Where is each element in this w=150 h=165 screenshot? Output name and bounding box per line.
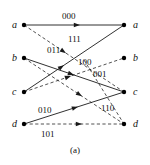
edge-label-010: 010 xyxy=(38,106,52,115)
edge-d-to-c-arrowhead xyxy=(71,106,78,110)
node-label-right-a: a xyxy=(133,20,138,30)
node-left-c xyxy=(22,90,26,94)
edge-label-110: 110 xyxy=(101,104,114,113)
node-label-right-c: c xyxy=(133,87,137,97)
node-label-left-c: c xyxy=(12,87,16,97)
node-label-right-d: d xyxy=(133,119,138,129)
edge-b-to-d-arrowhead xyxy=(76,91,82,96)
edge-label-001: 001 xyxy=(93,70,107,79)
edge-label-101: 101 xyxy=(41,130,55,139)
edge-label-000: 000 xyxy=(62,12,76,21)
node-label-right-b: b xyxy=(133,53,138,63)
node-label-left-d: d xyxy=(12,119,17,129)
node-right-a xyxy=(122,23,126,27)
edge-c-to-b-arrowhead xyxy=(64,76,71,80)
node-left-b xyxy=(22,56,26,60)
figure-container: abcdabcd 000111001011100010101110 (a) xyxy=(0,0,150,165)
edge-d-to-d-arrowhead xyxy=(76,122,82,127)
edge-a-to-c-arrowhead xyxy=(60,48,66,53)
edge-label-011: 011 xyxy=(47,46,60,55)
edge-label-111: 111 xyxy=(68,35,81,44)
node-left-a xyxy=(22,23,26,27)
node-right-d xyxy=(122,122,126,126)
node-right-c xyxy=(122,90,126,94)
trellis-diagram xyxy=(0,0,150,165)
node-left-d xyxy=(22,122,26,126)
node-label-left-a: a xyxy=(12,20,17,30)
edge-b-to-c-arrowhead xyxy=(67,71,74,75)
node-right-b xyxy=(122,56,126,60)
edge-a-to-a-arrowhead xyxy=(74,23,80,28)
edge-label-100: 100 xyxy=(78,58,92,67)
figure-caption: (a) xyxy=(0,145,150,155)
node-label-left-b: b xyxy=(12,53,17,63)
